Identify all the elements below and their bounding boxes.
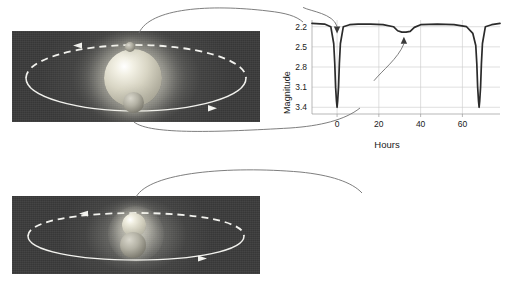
figure-root: Magnitude 2.22.52.83.13.40204060 Hours M… [0,0,509,294]
plot-area-top: 2.22.52.83.13.40204060 [272,14,504,136]
light-curve-path [312,23,500,107]
x-axis-label-top: Hours [332,139,442,150]
y-tick-label: 2.5 [295,42,307,52]
illustration-close-binary [12,196,260,274]
orbit-direction-arrow-far [73,43,82,49]
companion-star-back [125,42,135,52]
x-tick-label: 60 [458,119,468,129]
secondary-eclipse-pointer-head [401,37,407,44]
y-tick-label: 3.1 [295,82,307,92]
orbit-direction-arrow-near [208,105,217,111]
panel-top: Magnitude 2.22.52.83.13.40204060 Hours [0,0,509,160]
x-tick-label: 0 [335,119,340,129]
y-tick-label: 2.2 [295,22,307,32]
illustration-wide-binary [12,31,260,122]
primary-eclipse-pointer-head [334,26,340,33]
y-tick-label: 2.8 [295,62,307,72]
y-tick-label: 3.4 [295,102,307,112]
panel-bottom: Magnitude 3.84.04.201020304050 Days [0,165,509,294]
secondary-eclipse-pointer-line [374,44,404,81]
chart-top-light-curve: Magnitude 2.22.52.83.13.40204060 Hours [272,14,504,154]
x-tick-label: 20 [374,119,384,129]
companion-star-front [123,92,144,113]
x-tick-label: 40 [416,119,426,129]
secondary-star [120,232,146,258]
orbit-direction-arrow-near [198,256,207,262]
y-axis-label-top: Magnitude [282,71,292,114]
